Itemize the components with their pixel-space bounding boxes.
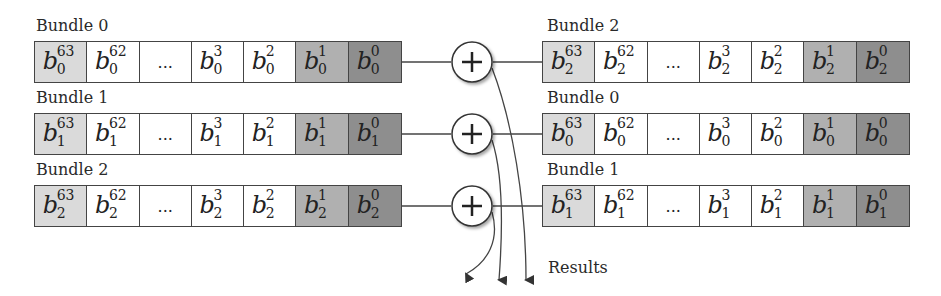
results-label: Results xyxy=(548,258,608,277)
connector-overlay xyxy=(0,0,941,296)
result-arrow-0 xyxy=(492,68,526,280)
result-arrow-1 xyxy=(492,140,502,280)
